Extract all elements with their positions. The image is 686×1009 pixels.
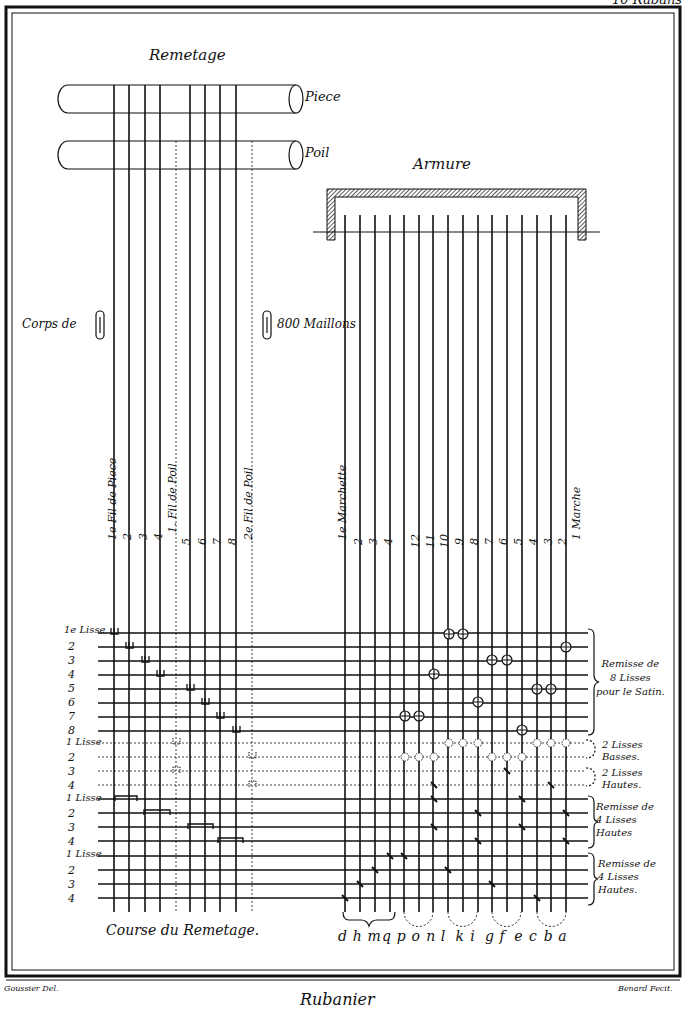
heddle-marks-poil xyxy=(173,738,256,787)
thread-label: 1e Fil de Piece xyxy=(106,458,119,540)
lisse-rows-satin xyxy=(98,633,588,731)
thread-label: 7 xyxy=(211,538,224,545)
armure-tie-marks xyxy=(342,768,569,901)
marche-label: 4 xyxy=(382,538,395,545)
maillon-icon xyxy=(96,311,271,339)
lisse-rows-remise xyxy=(98,799,588,898)
thread-label: 6 xyxy=(196,538,209,545)
legend-remisse-4-hautes-b: Remisse de 4 Lisses Hautes. xyxy=(598,857,656,896)
armure-frame xyxy=(313,189,600,240)
armure-bottom-loops xyxy=(343,912,566,927)
row-label: 2 xyxy=(68,640,75,653)
corps-label-right: 800 Maillons xyxy=(277,317,356,331)
roller-poil xyxy=(58,141,303,169)
thread-label: 2e Fil de Poil xyxy=(242,467,255,540)
marche-label: 3 xyxy=(367,538,380,545)
row-label: 7 xyxy=(68,710,75,723)
armure-title: Armure xyxy=(413,155,471,173)
lisse-rows-dotted xyxy=(98,743,586,785)
row-label: 4 xyxy=(68,835,75,848)
row-label: 4 xyxy=(68,668,75,681)
row-label: 3 xyxy=(68,654,75,667)
legend-2-lisses-basses: 2 Lisses Basses. xyxy=(602,739,643,763)
marche-label: 9 xyxy=(453,538,466,545)
credit-draughtsman: Goussier Del. xyxy=(4,984,58,993)
thread-label: 2 xyxy=(121,533,134,540)
marche-label: 6 xyxy=(497,538,510,545)
thread-label: 4 xyxy=(152,533,165,540)
armure-dotted-circle-marks xyxy=(401,739,570,761)
marche-label: 12 xyxy=(409,534,422,548)
marche-label: 4 xyxy=(527,538,540,545)
marche-label: 3 xyxy=(542,538,555,545)
row-label: 1 Lisse xyxy=(66,792,102,803)
marche-label: 1 Marche xyxy=(570,487,583,540)
thread-label: 3 xyxy=(137,533,150,540)
credit-engraver: Benard Fecit. xyxy=(618,984,673,993)
marche-label: 5 xyxy=(512,538,525,545)
thread-label: 5 xyxy=(180,538,193,545)
marche-label: 7 xyxy=(483,538,496,545)
legend-2-lisses-hautes: 2 Lisses Hautes. xyxy=(602,767,643,791)
armure-warp-threads xyxy=(345,215,566,912)
row-label: 4 xyxy=(68,779,75,792)
marche-label: 10 xyxy=(438,534,451,548)
row-label: 6 xyxy=(68,696,75,709)
corner-label: 10 Rubans xyxy=(612,0,682,7)
thread-label: 1. Fil de Poil xyxy=(166,463,179,533)
row-label: 3 xyxy=(68,821,75,834)
marche-label: 1e Marchette xyxy=(336,465,349,540)
row-label: 2 xyxy=(68,807,75,820)
row-label: 5 xyxy=(68,682,75,695)
row-label: 2 xyxy=(68,864,75,877)
row-label: 1 Lisse xyxy=(66,848,102,859)
marche-label: 2 xyxy=(556,538,569,545)
legend-remisse-4-hautes-a: Remisse de 4 Lisses Hautes xyxy=(596,800,654,839)
row-label: 1 Lisse xyxy=(66,736,102,747)
roller-label-poil: Poil xyxy=(305,145,329,160)
roller-piece xyxy=(58,85,303,113)
marche-label: 8 xyxy=(468,538,481,545)
footer-title: Rubanier xyxy=(300,990,375,1009)
thread-label: 8 xyxy=(226,538,239,545)
row-label: 4 xyxy=(68,892,75,905)
roller-label-piece: Piece xyxy=(305,89,341,104)
remetage-title: Remetage xyxy=(149,46,226,64)
row-label: 3 xyxy=(68,878,75,891)
corps-label-left: Corps de xyxy=(22,317,77,331)
row-label: 3 xyxy=(68,765,75,778)
armure-circle-marks xyxy=(400,629,571,735)
legend-remisse-8-satin: Remisse de 8 Lisses pour le Satin. xyxy=(596,657,665,699)
heddle-marks-remise xyxy=(115,796,243,843)
row-label: 1e Lisse xyxy=(64,624,105,635)
row-label: 2 xyxy=(68,751,75,764)
armure-letter-row: dhmqponlkigfecba xyxy=(338,928,573,944)
remetage-caption: Course du Remetage. xyxy=(106,922,259,938)
marche-label: 11 xyxy=(424,534,437,548)
marche-label: 2 xyxy=(352,538,365,545)
remetage-poil-threads xyxy=(176,141,252,912)
